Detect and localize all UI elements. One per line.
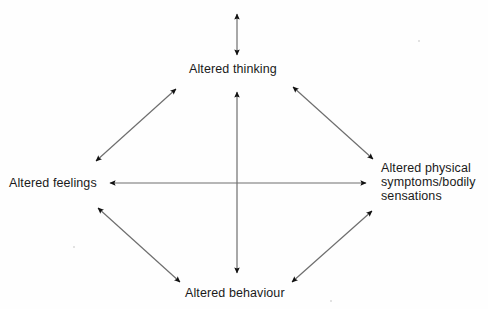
arrow-behaviour-to-physical bbox=[292, 211, 372, 282]
node-label-physical-line-3: sensations bbox=[381, 189, 442, 203]
node-label-feelings: Altered feelings bbox=[9, 176, 97, 190]
node-label-thinking: Altered thinking bbox=[189, 62, 277, 76]
arrow-layer bbox=[0, 0, 488, 309]
arrow-feelings-to-behaviour bbox=[98, 208, 180, 282]
scan-speck bbox=[73, 246, 75, 248]
arrow-feelings-to-thinking bbox=[96, 89, 176, 161]
node-label-physical-symptoms: Altered physical symptoms/bodily sensati… bbox=[381, 161, 485, 203]
diagram-canvas: Altered thinking Altered feelings Altere… bbox=[0, 0, 488, 309]
node-label-behaviour: Altered behaviour bbox=[185, 286, 285, 300]
scan-speck bbox=[330, 300, 332, 302]
node-label-physical-line-2: symptoms/bodily bbox=[381, 175, 476, 189]
arrow-thinking-to-physical bbox=[293, 87, 373, 159]
scan-speck bbox=[418, 40, 420, 42]
node-label-physical-line-1: Altered physical bbox=[381, 161, 471, 175]
